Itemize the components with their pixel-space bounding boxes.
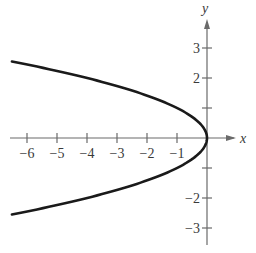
- y-tick-label: 3: [193, 41, 200, 56]
- x-tick-label: −2: [140, 146, 155, 161]
- x-tick-label: −5: [50, 146, 65, 161]
- x-ticks: −6−5−4−3−2−1: [20, 133, 185, 161]
- y-tick-label: −3: [185, 221, 200, 236]
- x-tick-label: −6: [20, 146, 35, 161]
- y-tick-label: 2: [193, 71, 200, 86]
- y-axis-arrow-icon: [204, 19, 210, 29]
- x-tick-label: −1: [170, 146, 185, 161]
- x-tick-label: −4: [80, 146, 95, 161]
- y-tick-label: −2: [185, 191, 200, 206]
- y-axis-label: y: [200, 1, 209, 16]
- x-axis-label: x: [239, 131, 247, 146]
- x-tick-label: −3: [110, 146, 125, 161]
- parabola-chart: x y −6−5−4−3−2−1 −3−223: [0, 0, 256, 253]
- x-axis-arrow-icon: [226, 135, 236, 141]
